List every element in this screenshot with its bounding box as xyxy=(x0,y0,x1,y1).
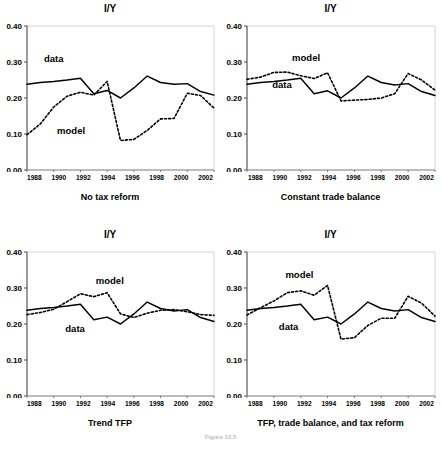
chart-xlabel: TFP, trade balance, and tax reform xyxy=(220,418,441,428)
series-line-data xyxy=(247,302,435,324)
y-tick-label: 0.00 xyxy=(6,166,22,172)
x-tick-label: 2000 xyxy=(395,400,410,407)
y-tick-label: 0.10 xyxy=(226,130,242,139)
x-tick-label: 1992 xyxy=(297,400,312,407)
x-tick-label: 1992 xyxy=(76,400,91,407)
x-tick-label: 2002 xyxy=(198,400,213,407)
x-tick-label: 1988 xyxy=(248,400,263,407)
series-annotation-model: model xyxy=(285,269,313,280)
x-tick-label: 1992 xyxy=(76,174,91,181)
plot-area-tfp-trade-balance-tax-reform: 0.000.100.200.300.40modeldata xyxy=(220,248,441,398)
figure-panel-grid: I/Y 0.000.100.200.300.40datamodel 1988 1… xyxy=(0,0,441,432)
line-chart-svg: 0.000.100.200.300.40modeldata xyxy=(0,248,220,398)
y-tick-label: 0.20 xyxy=(226,94,242,103)
x-tick-label: 1996 xyxy=(125,174,140,181)
x-tick-label: 1998 xyxy=(149,400,164,407)
x-axis-tick-labels: 1988 1990 1992 1994 1996 1998 2000 2002 xyxy=(248,400,434,407)
line-chart-svg: 0.000.100.200.300.40datamodel xyxy=(0,22,220,172)
x-axis-tick-labels: 1988 1990 1992 1994 1996 1998 2000 2002 xyxy=(27,174,213,181)
x-tick-label: 1996 xyxy=(125,400,140,407)
series-annotation-data: data xyxy=(272,79,292,90)
y-tick-label: 0.30 xyxy=(6,284,22,293)
series-annotation-data: data xyxy=(65,323,85,334)
x-tick-label: 1998 xyxy=(370,174,385,181)
series-annotation-model: model xyxy=(57,125,85,136)
x-tick-label: 1998 xyxy=(149,174,164,181)
y-tick-label: 0.30 xyxy=(226,58,242,67)
x-tick-label: 1996 xyxy=(346,400,361,407)
chart-panel-constant-trade-balance: I/Y 0.000.100.200.300.40modeldata 1988 1… xyxy=(220,0,441,226)
x-tick-label: 1990 xyxy=(51,400,66,407)
x-axis-tick-labels: 1988 1990 1992 1994 1996 1998 2000 2002 xyxy=(27,400,213,407)
plot-area-trend-tfp: 0.000.100.200.300.40modeldata xyxy=(0,248,220,398)
y-tick-label: 0.00 xyxy=(226,166,242,172)
chart-title: I/Y xyxy=(220,229,441,240)
series-line-model xyxy=(27,293,214,318)
x-tick-label: 1988 xyxy=(27,174,42,181)
x-tick-label: 1998 xyxy=(370,400,385,407)
x-tick-label: 2002 xyxy=(419,400,434,407)
chart-title: I/Y xyxy=(0,3,220,14)
series-line-model xyxy=(27,81,214,140)
y-tick-label: 0.30 xyxy=(226,284,242,293)
x-tick-label: 2000 xyxy=(395,174,410,181)
series-annotation-data: data xyxy=(279,321,299,332)
x-tick-label: 1990 xyxy=(272,174,287,181)
x-tick-label: 1996 xyxy=(346,174,361,181)
y-tick-label: 0.20 xyxy=(226,320,242,329)
x-tick-label: 2000 xyxy=(174,400,189,407)
series-annotation-model: model xyxy=(292,52,320,63)
y-tick-label: 0.40 xyxy=(226,248,242,257)
y-tick-label: 0.20 xyxy=(6,320,22,329)
y-tick-label: 0.10 xyxy=(6,130,22,139)
chart-panel-no-tax-reform: I/Y 0.000.100.200.300.40datamodel 1988 1… xyxy=(0,0,220,226)
x-tick-label: 1988 xyxy=(248,174,263,181)
y-tick-label: 0.10 xyxy=(6,356,22,365)
chart-panel-tfp-trade-balance-tax-reform: I/Y 0.000.100.200.300.40modeldata 1988 1… xyxy=(220,226,441,452)
y-tick-label: 0.40 xyxy=(6,22,22,31)
x-tick-label: 1994 xyxy=(321,174,336,181)
y-tick-label: 0.00 xyxy=(226,392,242,398)
x-tick-label: 1990 xyxy=(51,174,66,181)
y-tick-label: 0.30 xyxy=(6,58,22,67)
x-axis-tick-labels: 1988 1990 1992 1994 1996 1998 2000 2002 xyxy=(248,174,434,181)
figure-caption: Figure 12.5 xyxy=(0,434,441,440)
x-tick-label: 1990 xyxy=(272,400,287,407)
line-chart-svg: 0.000.100.200.300.40modeldata xyxy=(220,22,441,172)
series-annotation-data: data xyxy=(44,53,64,64)
y-tick-label: 0.40 xyxy=(226,22,242,31)
chart-title: I/Y xyxy=(220,3,441,14)
x-tick-label: 2000 xyxy=(174,174,189,181)
plot-area-constant-trade-balance: 0.000.100.200.300.40modeldata xyxy=(220,22,441,172)
x-tick-label: 2002 xyxy=(198,174,213,181)
x-tick-label: 1988 xyxy=(27,400,42,407)
chart-xlabel: Constant trade balance xyxy=(220,192,441,202)
x-tick-label: 1994 xyxy=(321,400,336,407)
y-tick-label: 0.20 xyxy=(6,94,22,103)
x-tick-label: 1994 xyxy=(100,400,115,407)
y-tick-label: 0.10 xyxy=(226,356,242,365)
chart-panel-trend-tfp: I/Y 0.000.100.200.300.40modeldata 1988 1… xyxy=(0,226,220,452)
chart-xlabel: No tax reform xyxy=(0,192,220,202)
x-tick-label: 2002 xyxy=(419,174,434,181)
series-annotation-model: model xyxy=(96,275,124,286)
plot-area-no-tax-reform: 0.000.100.200.300.40datamodel xyxy=(0,22,220,172)
chart-xlabel: Trend TFP xyxy=(0,418,220,428)
chart-title: I/Y xyxy=(0,229,220,240)
line-chart-svg: 0.000.100.200.300.40modeldata xyxy=(220,248,441,398)
y-tick-label: 0.00 xyxy=(6,392,22,398)
y-tick-label: 0.40 xyxy=(6,248,22,257)
x-tick-label: 1994 xyxy=(100,174,115,181)
series-line-model xyxy=(247,285,435,339)
x-tick-label: 1992 xyxy=(297,174,312,181)
